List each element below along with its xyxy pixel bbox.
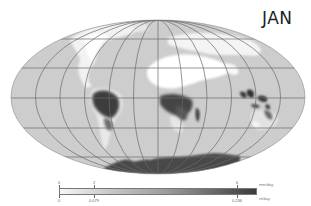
colorbar-bottom-unit: in/day bbox=[259, 196, 270, 201]
colorbar-top-tick bbox=[237, 185, 238, 188]
colorbar-top-label: 6 bbox=[236, 180, 238, 185]
colorbar-bottom-label: 0.236 bbox=[232, 198, 242, 203]
colorbar-bottom-label: 0.079 bbox=[89, 198, 99, 203]
colorbar-top-unit: mm/day bbox=[259, 182, 273, 187]
ocean bbox=[0, 0, 311, 180]
colorbar-top-label: 2 bbox=[93, 180, 95, 185]
colorbar-top-label: 0 bbox=[58, 180, 60, 185]
colorbar-top-tick bbox=[59, 185, 60, 188]
colorbar-top-tick bbox=[94, 185, 95, 188]
colorbar-gradient bbox=[59, 188, 257, 195]
colorbar: 0 2 6 mm/day 0 0.079 0.236 in/day bbox=[0, 180, 311, 206]
colorbar-bottom-label: 0 bbox=[58, 198, 60, 203]
precipitation-map bbox=[0, 0, 311, 180]
